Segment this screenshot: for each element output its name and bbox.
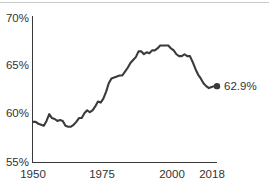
x-tick-label: 2018 xyxy=(199,168,225,180)
y-tick-label: 65% xyxy=(6,59,29,71)
end-point-marker xyxy=(214,83,220,89)
x-axis-tick-labels: 1950 1975 2000 2018 xyxy=(20,168,225,180)
end-value-label: 62.9% xyxy=(224,80,257,92)
axis-lines xyxy=(33,16,218,163)
x-tick-label: 1975 xyxy=(89,168,115,180)
chart-container: 70% 65% 60% 55% 1950 1975 2000 2018 62.9… xyxy=(0,0,269,185)
x-tick-label: 2000 xyxy=(159,168,185,180)
y-tick-label: 60% xyxy=(6,107,29,119)
y-tick-label: 55% xyxy=(6,156,29,168)
y-axis-tick-labels: 70% 65% 60% 55% xyxy=(6,12,29,168)
data-line-participation-rate xyxy=(33,46,217,127)
x-tick-label: 1950 xyxy=(20,168,46,180)
y-tick-label: 70% xyxy=(6,12,29,24)
line-chart: 70% 65% 60% 55% 1950 1975 2000 2018 62.9… xyxy=(0,0,269,185)
